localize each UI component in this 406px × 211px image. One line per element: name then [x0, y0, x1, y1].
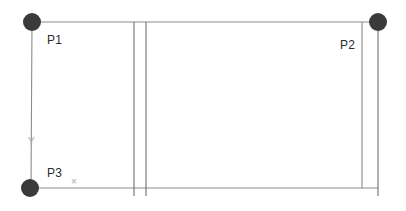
node-p3-label: P3 [47, 167, 62, 179]
x-axis-marker-icon: × [71, 177, 77, 187]
edge-left-post[interactable] [31, 22, 32, 188]
node-group [21, 13, 387, 197]
node-p3-marker[interactable] [21, 179, 39, 197]
node-p2-label: P2 [340, 39, 355, 51]
y-axis-marker-icon: Y [28, 137, 35, 147]
node-p1-label: P1 [47, 34, 62, 46]
node-p2-marker[interactable] [369, 13, 387, 31]
edge-group [30, 22, 378, 196]
diagram-canvas: P1 P2 P3 Y × [0, 0, 406, 211]
node-p1-marker[interactable] [23, 13, 41, 31]
